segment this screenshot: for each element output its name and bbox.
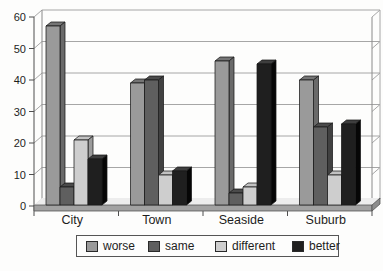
gridline-wrap-20 [372, 136, 380, 143]
y-tick-label-50: 50 [14, 43, 26, 55]
bar-city-better [88, 159, 102, 205]
legend-item-same: same [148, 236, 194, 256]
y-tick-label-10: 10 [14, 169, 26, 181]
category-label-city: City [61, 213, 83, 227]
chart-canvas: 0102030405060CityTownSeasideSuburb [0, 0, 383, 271]
axis-connector-50 [34, 42, 42, 49]
floor-front-face [34, 205, 372, 211]
bar-suburb-better [342, 124, 356, 205]
bar-seaside-better-side [271, 60, 276, 205]
gridline-wrap-50 [372, 42, 380, 49]
bar-seaside-better [257, 64, 271, 205]
y-tick-label-0: 0 [20, 200, 26, 212]
gridline-wrap-30 [372, 105, 380, 112]
same-swatch-icon [148, 241, 160, 252]
axis-connector-40 [34, 73, 42, 80]
legend-label-worse: worse [103, 236, 135, 256]
legend-item-better: better [292, 236, 340, 256]
gridline-wrap-40 [372, 73, 380, 80]
bar-seaside-worse [215, 61, 229, 205]
bar-city-better-side [102, 155, 107, 205]
y-tick-label-20: 20 [14, 137, 26, 149]
legend-item-different: different [215, 236, 275, 256]
bar-seaside-worse-side [229, 57, 234, 205]
bar-suburb-better-side [356, 120, 361, 205]
legend-label-better: better [309, 236, 340, 256]
bar-seaside-same [229, 193, 243, 205]
gridline-wrap-60 [372, 10, 380, 17]
bar-town-worse [131, 83, 145, 205]
bar-seaside-different [243, 187, 257, 205]
bar-town-same [145, 80, 159, 205]
bar-city-different [74, 140, 88, 205]
legend-label-different: different [232, 236, 275, 256]
bar-town-better [173, 171, 187, 205]
legend-label-same: same [165, 236, 194, 256]
bar-town-better-side [187, 167, 192, 205]
bar-town-different [159, 175, 173, 205]
y-tick-label-60: 60 [14, 11, 26, 23]
bar-chart-figure: 0102030405060CityTownSeasideSuburb worse… [0, 0, 383, 271]
bar-city-worse-side [60, 22, 65, 205]
category-label-seaside: Seaside [219, 213, 264, 227]
worse-swatch-icon [86, 241, 98, 252]
y-tick-label-30: 30 [14, 106, 26, 118]
better-swatch-icon [292, 241, 304, 252]
axis-connector-30 [34, 105, 42, 112]
y-tick-label-40: 40 [14, 74, 26, 86]
category-label-town: Town [142, 213, 171, 227]
bar-city-worse [46, 26, 60, 205]
axis-connector-10 [34, 168, 42, 175]
bar-suburb-worse [300, 80, 314, 205]
bar-suburb-same [314, 127, 328, 205]
legend: worse same different better [76, 235, 339, 257]
category-label-suburb: Suburb [306, 213, 346, 227]
different-swatch-icon [215, 241, 227, 252]
bar-city-same [60, 187, 74, 205]
axis-connector-60 [34, 10, 42, 17]
gridline-wrap-10 [372, 168, 380, 175]
axis-connector-20 [34, 136, 42, 143]
bar-suburb-different [328, 175, 342, 205]
legend-item-worse: worse [86, 236, 135, 256]
